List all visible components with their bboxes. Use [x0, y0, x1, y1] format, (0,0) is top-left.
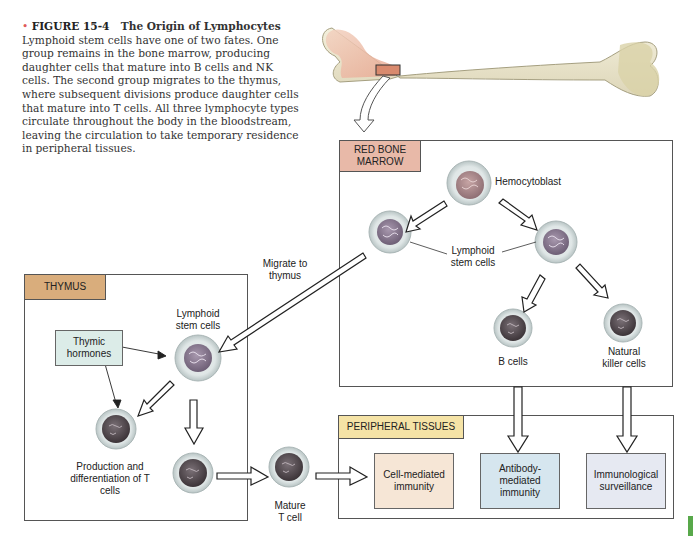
- b-cell: [494, 309, 532, 347]
- lymphoid-stem-cell-thymus: [175, 335, 221, 381]
- arrow-b-cell-to-antibody: [508, 387, 528, 452]
- arrow-hemo-to-right-stem: [499, 199, 537, 230]
- immunological-surveillance-box: Immunological surveillance: [586, 453, 666, 509]
- hemocytoblast-cell: [447, 161, 491, 205]
- arrow-to-cell-mediated: [316, 467, 367, 485]
- lymphoid-stem-cell-marrow-left: [369, 211, 411, 253]
- page-edge-tab: [688, 516, 693, 536]
- arrow-to-mature-t-cell: [217, 467, 268, 485]
- lymphoid-stem-cell-marrow-right: [535, 221, 577, 263]
- antibody-mediated-immunity-label: Antibody-mediated immunity: [481, 463, 559, 499]
- antibody-mediated-immunity-box: Antibody-mediated immunity: [480, 453, 560, 509]
- mature-t-cell-label: Mature T cell: [272, 500, 308, 524]
- arrow-thymus-stem-to-left-cell: [138, 381, 174, 416]
- hemocytoblast-label: Hemocytoblast: [495, 176, 561, 188]
- cell-mediated-immunity-box: Cell-mediated immunity: [374, 453, 454, 509]
- femur-bone-illustration: [323, 28, 660, 96]
- thymic-hormones-label: Thymic hormones: [56, 336, 122, 360]
- differentiating-t-cell: [96, 409, 136, 449]
- cell-mediated-immunity-label: Cell-mediated immunity: [375, 469, 453, 493]
- lymphoid-stem-cells-thymus-label: Lymphoid stem cells: [168, 308, 228, 332]
- b-cells-label: B cells: [493, 356, 533, 368]
- nk-cells-label: Natural killer cells: [597, 346, 651, 370]
- arrow-hemo-to-left-stem: [406, 201, 447, 232]
- natural-killer-cell: [604, 304, 642, 342]
- lymphoid-stem-cells-marrow-label: Lymphoid stem cells: [444, 245, 502, 269]
- thymic-hormones-box: Thymic hormones: [55, 330, 123, 366]
- arrow-stem-to-b-cell: [522, 275, 545, 312]
- migrate-to-thymus-label: Migrate to thymus: [255, 258, 315, 282]
- production-differentiation-label: Production and differentiation of T cell…: [60, 461, 160, 497]
- t-cell-thymus: [173, 453, 213, 493]
- arrow-thymus-stem-down: [185, 400, 203, 444]
- mature-t-cell: [269, 447, 309, 487]
- immunological-surveillance-label: Immunological surveillance: [587, 469, 665, 493]
- arrow-nk-to-surveillance: [617, 387, 637, 452]
- bone-to-marrow-arrow: [354, 76, 390, 132]
- arrow-stem-to-nk-cell: [576, 264, 608, 298]
